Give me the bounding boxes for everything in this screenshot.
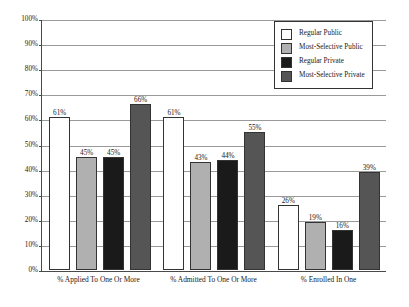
y-axis-tick-label: 30% [4, 192, 38, 199]
y-axis-tick-mark [39, 196, 42, 197]
bar-slot: 61% [163, 20, 184, 270]
y-axis-tick-label: 20% [4, 217, 38, 224]
legend-item[interactable]: Most-Selective Private [281, 69, 365, 83]
y-axis-tick-mark [39, 20, 42, 21]
y-axis-tick-label: 60% [4, 117, 38, 124]
category-label: % Enrolled In One [271, 276, 386, 283]
y-axis-tick-label: 80% [4, 67, 38, 74]
bar[interactable]: 39% [359, 172, 380, 270]
y-axis-tick-label: 90% [4, 41, 38, 48]
y-axis-tick-label: 70% [4, 92, 38, 99]
bar-slot: 45% [76, 20, 97, 270]
bar[interactable]: 61% [49, 117, 70, 270]
legend-swatch-icon [281, 29, 292, 40]
bar-slot: 45% [103, 20, 124, 270]
y-axis-tick-mark [39, 246, 42, 247]
bar[interactable]: 16% [332, 230, 353, 270]
bar-value-label: 39% [363, 164, 376, 172]
gridline [42, 271, 386, 272]
bar-slot: 44% [217, 20, 238, 270]
bar-value-label: 26% [282, 196, 295, 204]
legend-item-label: Regular Private [299, 58, 344, 65]
bar-slot: 61% [49, 20, 70, 270]
legend-item[interactable]: Most-Selective Public [281, 41, 365, 55]
y-axis-tick-label: 10% [4, 242, 38, 249]
bar-value-label: 43% [194, 154, 207, 162]
bar-group: 61%45%45%66% [43, 20, 157, 270]
bar-slot: 66% [130, 20, 151, 270]
bar-value-label: 55% [248, 124, 261, 132]
bar-value-label: 61% [167, 109, 180, 117]
legend-swatch-icon [281, 57, 292, 68]
y-axis-tick-mark [39, 146, 42, 147]
y-axis: 100%90%80%70%60%50%40%30%20%10%0% [0, 20, 38, 272]
bar[interactable]: 61% [163, 117, 184, 270]
y-axis-tick-label: 100% [4, 16, 38, 23]
bar-value-label: 61% [53, 109, 66, 117]
bar[interactable]: 19% [305, 222, 326, 270]
bar-value-label: 16% [336, 222, 349, 230]
y-axis-tick-mark [39, 221, 42, 222]
bar[interactable]: 66% [130, 104, 151, 270]
bar[interactable]: 45% [103, 157, 124, 270]
y-axis-tick-label: 40% [4, 167, 38, 174]
legend-item-label: Most-Selective Public [299, 44, 363, 51]
y-axis-tick-mark [39, 120, 42, 121]
legend-item[interactable]: Regular Public [281, 27, 365, 41]
y-axis-tick-mark [39, 95, 42, 96]
bar[interactable]: 26% [278, 205, 299, 270]
bar[interactable]: 44% [217, 160, 238, 270]
legend-item-label: Most-Selective Private [299, 72, 365, 79]
legend-swatch-icon [281, 43, 292, 54]
bar-slot: 55% [244, 20, 265, 270]
category-label: % Admitted To One Or More [156, 276, 271, 283]
y-axis-tick-label: 0% [4, 267, 38, 274]
legend-swatch-icon [281, 71, 292, 82]
y-axis-tick-label: 50% [4, 142, 38, 149]
bar-slot: 43% [190, 20, 211, 270]
y-axis-tick-mark [39, 171, 42, 172]
bar-value-label: 66% [134, 96, 147, 104]
y-axis-tick-mark [39, 45, 42, 46]
y-axis-tick-mark [39, 271, 42, 272]
y-axis-tick-mark [39, 70, 42, 71]
bar-value-label: 44% [221, 151, 234, 159]
legend-item[interactable]: Regular Private [281, 55, 365, 69]
bar[interactable]: 43% [190, 162, 211, 270]
category-axis-labels: % Applied To One Or More% Admitted To On… [41, 276, 386, 283]
category-label: % Applied To One Or More [41, 276, 156, 283]
bar-value-label: 45% [107, 149, 120, 157]
chart-legend: Regular PublicMost-Selective PublicRegul… [274, 21, 373, 89]
bar[interactable]: 55% [244, 132, 265, 270]
bar-value-label: 45% [80, 149, 93, 157]
bar-group: 61%43%44%55% [157, 20, 271, 270]
legend-item-label: Regular Public [299, 30, 342, 37]
bar-value-label: 19% [309, 214, 322, 222]
bar-chart: 100%90%80%70%60%50%40%30%20%10%0% 61%45%… [0, 0, 409, 307]
bar[interactable]: 45% [76, 157, 97, 270]
